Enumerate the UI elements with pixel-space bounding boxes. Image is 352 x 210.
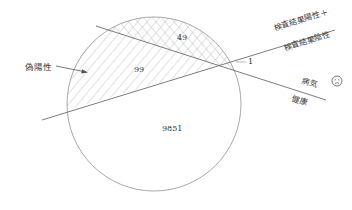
true-positive-count: 49 (177, 33, 187, 42)
sad-face-icon (332, 76, 342, 86)
false-positive-count: 99 (134, 65, 144, 74)
false-negative-count: 1 (248, 57, 253, 66)
false-positive-label: 偽陽性 (25, 60, 52, 72)
true-negative-count: 9851 (162, 124, 182, 133)
